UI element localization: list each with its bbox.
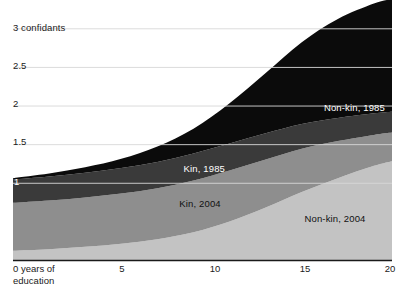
x-tick-label-15: 15 (300, 263, 311, 275)
series-label-kin-2004: Kin, 2004 (179, 198, 221, 209)
y-tick-label-2-5: 2.5 (13, 60, 27, 71)
x-tick-label-0-line1: 0 years of (13, 263, 55, 274)
y-tick-label-3: 3 confidants (13, 22, 65, 33)
x-tick-label-20: 20 (385, 263, 396, 275)
x-tick-label-5: 5 (119, 263, 124, 275)
x-tick-label-0-line2: education (13, 275, 54, 286)
x-tick-label-10: 10 (210, 263, 221, 275)
y-tick-label-2: 2 (13, 98, 18, 109)
stacked-area-chart (0, 0, 409, 297)
y-tick-label-1: 1 (14, 176, 19, 187)
series-label-non-kin-2004: Non-kin, 2004 (304, 213, 365, 224)
series-label-non-kin-1985: Non-kin, 1985 (324, 102, 385, 113)
x-tick-label-0: 0 years of education (13, 263, 55, 286)
y-tick-label-1-5: 1.5 (13, 136, 27, 147)
chart-root: 3 confidants 2.5 2 1.5 1 0 years of educ… (0, 0, 409, 297)
series-label-kin-1985: Kin, 1985 (184, 163, 226, 174)
